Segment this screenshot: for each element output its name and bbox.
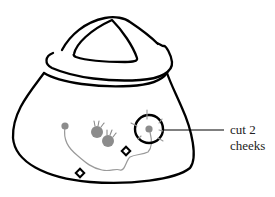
marker-diamond-lower	[76, 169, 84, 177]
marker-diamond-upper	[122, 147, 130, 155]
cut-circle	[131, 110, 163, 143]
label-line1: cut 2	[230, 122, 256, 137]
diagram: cut 2 cheeks	[0, 0, 275, 197]
vein-line	[65, 127, 152, 171]
spot-small-left	[61, 122, 68, 129]
label-line2: cheeks	[230, 138, 265, 153]
spots-cluster	[91, 121, 116, 147]
bell-body	[13, 73, 194, 183]
